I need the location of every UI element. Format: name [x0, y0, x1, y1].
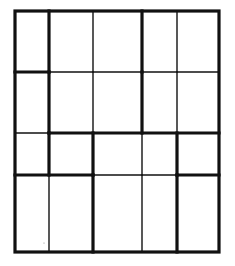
grid-diagram	[0, 0, 235, 266]
stray-mark	[43, 242, 44, 243]
